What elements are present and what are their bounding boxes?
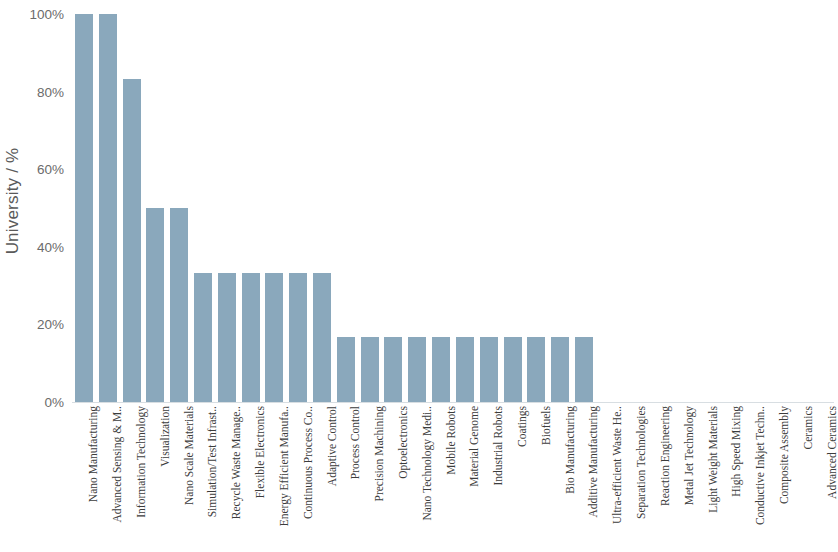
x-axis-tick-label-text: High Speed Mixing <box>731 406 743 497</box>
bar <box>432 337 450 402</box>
y-axis-tick-label: 20% <box>22 317 64 332</box>
bar <box>75 14 93 402</box>
bar <box>146 208 164 402</box>
y-axis-tick-label: 60% <box>22 162 64 177</box>
x-axis-tick-label: Process Control <box>350 406 362 479</box>
x-axis-tick-label: Nano Scale Materials <box>184 406 196 505</box>
x-axis-tick-label-text: Recycle Waste Manage.. <box>231 406 243 519</box>
x-axis-tick-label: Recycle Waste Manage.. <box>231 406 243 519</box>
x-axis-tick-label-text: Light Weight Materials <box>708 406 720 513</box>
x-axis-tick-label: Light Weight Materials <box>708 406 720 513</box>
bar <box>289 273 307 402</box>
bar <box>384 337 402 402</box>
x-axis-baseline <box>72 402 834 403</box>
x-axis-tick-label: Simulation/Test Infrast.. <box>207 406 219 517</box>
x-axis-tick-label: Composite Assembly <box>779 406 791 504</box>
x-axis-tick-label-text: Material Genome <box>469 406 481 487</box>
x-axis-tick-label: Industrial Robots <box>493 406 505 486</box>
x-axis-tick-label-text: Information Technology <box>136 406 148 518</box>
x-axis-tick-label: Ultra-efficient Waste He.. <box>612 406 624 524</box>
x-axis-tick-label-text: Reaction Engineering <box>660 406 672 506</box>
x-axis-tick-label: Information Technology <box>136 406 148 518</box>
x-axis-tick-label-text: Adaptive Control <box>327 406 339 486</box>
x-axis-tick-label-text: Advanced Ceramics <box>827 406 838 499</box>
x-axis-tick-label-text: Nano Manufacturing <box>88 406 100 502</box>
y-axis-tick-label: 100% <box>22 7 64 22</box>
bar <box>456 337 474 402</box>
x-axis-tick-label-text: Optoelectronics <box>398 406 410 479</box>
bar <box>337 337 355 402</box>
x-axis-tick-label-text: Additive Manufacturing <box>588 406 600 517</box>
bar <box>408 337 426 402</box>
x-axis-tick-label-text: Separation Technologies <box>636 406 648 519</box>
x-axis-tick-label: Advanced Sensing & M.. <box>112 406 124 523</box>
x-axis-tick-label: Coatings <box>517 406 529 447</box>
x-axis-tick-label: Conductive Inkjet Techn.. <box>755 406 767 525</box>
x-axis-tick-label-text: Flexible Electronics <box>255 406 267 498</box>
x-axis-tick-label-text: Nano Scale Materials <box>184 406 196 505</box>
x-axis-tick-label: Bio Manufacturing <box>565 406 577 494</box>
plot-area <box>72 14 834 402</box>
x-axis-tick-label: Optoelectronics <box>398 406 410 479</box>
x-axis-tick-label: Reaction Engineering <box>660 406 672 506</box>
y-axis-tick-label: 40% <box>22 239 64 254</box>
x-axis-tick-label-text: Ultra-efficient Waste He.. <box>612 406 624 524</box>
x-axis-tick-label: Additive Manufacturing <box>588 406 600 517</box>
x-axis-tick-label: Flexible Electronics <box>255 406 267 498</box>
x-axis-tick-label-text: Visualization <box>160 406 172 467</box>
x-axis-tick-label: High Speed Mixing <box>731 406 743 497</box>
x-axis-tick-label: Adaptive Control <box>327 406 339 486</box>
x-axis-tick-label-text: Energy Efficient Manufa.. <box>279 406 291 526</box>
bar <box>242 273 260 402</box>
x-axis-tick-label: Separation Technologies <box>636 406 648 519</box>
y-axis-tick-labels: 100%80%60%40%20%0% <box>26 0 68 410</box>
bar <box>99 14 117 402</box>
bar <box>575 337 593 402</box>
bar <box>313 273 331 402</box>
x-axis-tick-label: Continuous Process Co.. <box>303 406 315 519</box>
x-axis-tick-label-text: Process Control <box>350 406 362 479</box>
x-axis-tick-labels: Nano ManufacturingAdvanced Sensing & M..… <box>72 404 834 552</box>
bar <box>480 337 498 402</box>
x-axis-tick-label-text: Precision Machining <box>374 406 386 502</box>
x-axis-tick-label: Advanced Ceramics <box>827 406 838 499</box>
x-axis-tick-label-text: Conductive Inkjet Techn.. <box>755 406 767 525</box>
x-axis-tick-label-text: Advanced Sensing & M.. <box>112 406 124 523</box>
y-axis-title: University / % <box>0 0 26 402</box>
bar <box>551 337 569 402</box>
bar <box>361 337 379 402</box>
x-axis-tick-label-text: Simulation/Test Infrast.. <box>207 406 219 517</box>
x-axis-tick-label-text: Coatings <box>517 406 529 447</box>
x-axis-tick-label-text: Continuous Process Co.. <box>303 406 315 519</box>
x-axis-tick-label-text: Mobile Robots <box>446 406 458 475</box>
bar <box>527 337 545 402</box>
x-axis-tick-label: Visualization <box>160 406 172 467</box>
x-axis-tick-label: Ceramics <box>803 406 815 449</box>
x-axis-tick-label-text: Bio Manufacturing <box>565 406 577 494</box>
bar <box>218 273 236 402</box>
bar <box>170 208 188 402</box>
x-axis-tick-label: Biofuels <box>541 406 553 445</box>
x-axis-tick-label-text: Metal Jet Technology <box>684 406 696 505</box>
y-axis-tick-label: 80% <box>22 84 64 99</box>
bar <box>123 79 141 402</box>
x-axis-tick-label: Precision Machining <box>374 406 386 502</box>
x-axis-tick-label: Mobile Robots <box>446 406 458 475</box>
x-axis-tick-label: Material Genome <box>469 406 481 487</box>
bar <box>504 337 522 402</box>
y-axis-tick-label: 0% <box>22 395 64 410</box>
x-axis-tick-label-text: Ceramics <box>803 406 815 449</box>
x-axis-tick-label-text: Nano Technology Medi.. <box>422 406 434 521</box>
bar <box>265 273 283 402</box>
x-axis-tick-label: Nano Manufacturing <box>88 406 100 502</box>
y-axis-title-text: University / % <box>3 148 23 255</box>
bars-layer <box>72 14 834 402</box>
x-axis-tick-label: Energy Efficient Manufa.. <box>279 406 291 526</box>
x-axis-tick-label: Metal Jet Technology <box>684 406 696 505</box>
x-axis-tick-label: Nano Technology Medi.. <box>422 406 434 521</box>
x-axis-tick-label-text: Composite Assembly <box>779 406 791 504</box>
bar <box>194 273 212 402</box>
x-axis-tick-label-text: Biofuels <box>541 406 553 445</box>
x-axis-tick-label-text: Industrial Robots <box>493 406 505 486</box>
